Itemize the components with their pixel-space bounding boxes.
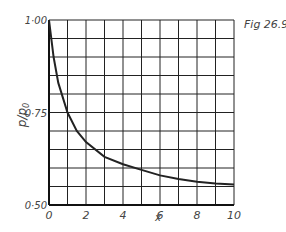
x-tick-label: 2: [83, 209, 90, 222]
figure-label: Fig 26.9: [244, 18, 286, 31]
x-tick-label: 10: [227, 209, 241, 222]
x-tick-label: 8: [194, 209, 201, 222]
y-axis-label: p/p0: [15, 103, 31, 128]
chart: 0246810 0·500·751·00 x p/p0 Fig 26.9: [0, 0, 286, 232]
y-tick-label: 0·50: [25, 200, 47, 211]
x-tick-label: 4: [120, 209, 127, 222]
x-tick-labels: 0246810: [46, 209, 242, 222]
y-tick-label: 1·00: [25, 15, 47, 26]
grid: [49, 20, 234, 205]
x-axis-label: x: [154, 212, 161, 223]
